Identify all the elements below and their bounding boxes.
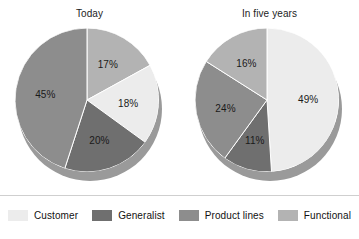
legend-item-functional[interactable]: Functional xyxy=(278,210,351,221)
pie-slice-label-generalist: 11% xyxy=(245,135,265,146)
legend-label-functional: Functional xyxy=(304,210,351,221)
pie-slice-label-functional: 16% xyxy=(236,58,256,69)
legend-item-generalist[interactable]: Generalist xyxy=(92,210,165,221)
pie-slice-label-product-lines: 45% xyxy=(35,88,55,99)
legend-label-generalist: Generalist xyxy=(118,210,165,221)
chart-title-today: Today xyxy=(0,8,179,19)
pie-slice-label-customer: 49% xyxy=(298,93,318,104)
legend-swatch-customer xyxy=(8,210,28,221)
legend-item-product-lines[interactable]: Product lines xyxy=(179,210,264,221)
legend-swatch-generalist xyxy=(92,210,112,221)
pie-slice-label-functional: 17% xyxy=(98,59,118,70)
chart-title-in-five-years: In five years xyxy=(180,8,359,19)
pie-slice-label-product-lines: 24% xyxy=(215,102,235,113)
chart-panel-in-five-years: In five years 49%11%24%16% xyxy=(180,0,359,192)
chart-legend: CustomerGeneralistProduct linesFunctiona… xyxy=(0,203,359,227)
legend-item-customer[interactable]: Customer xyxy=(8,210,78,221)
pie-today: 17%18%20%45% xyxy=(15,28,165,180)
legend-swatch-functional xyxy=(278,210,298,221)
pie-chart-figure: Today 17%18%20%45% In five years 49%11%2… xyxy=(0,0,359,239)
chart-panel-today: Today 17%18%20%45% xyxy=(0,0,179,192)
legend-label-customer: Customer xyxy=(34,210,78,221)
pie-slice-label-generalist: 20% xyxy=(89,134,109,145)
pie-slice-label-customer: 18% xyxy=(118,97,138,108)
legend-divider xyxy=(0,195,359,196)
pie-in-five-years: 49%11%24%16% xyxy=(195,28,345,180)
legend-swatch-product-lines xyxy=(179,210,199,221)
legend-label-product-lines: Product lines xyxy=(205,210,264,221)
